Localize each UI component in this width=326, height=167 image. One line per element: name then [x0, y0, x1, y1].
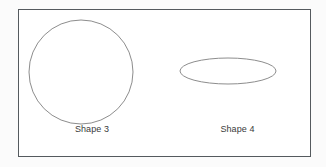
shape-3-drawing [19, 10, 165, 126]
figure-canvas: Shape 3 Shape 4 [0, 0, 326, 167]
shape-4-drawing [165, 10, 310, 126]
shape-cell-3: Shape 3 [19, 10, 165, 156]
figure-frame-border: Shape 3 Shape 4 [18, 9, 311, 157]
circle-outline-shape-3 [29, 20, 133, 124]
ellipse-outline-shape-4 [180, 58, 276, 84]
shape-4-label: Shape 4 [165, 124, 310, 135]
shape-cell-4: Shape 4 [165, 10, 310, 156]
shape-3-label: Shape 3 [19, 124, 165, 135]
